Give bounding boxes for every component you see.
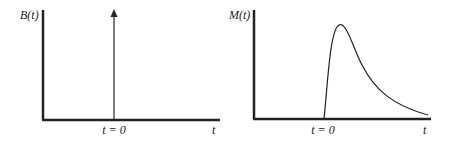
- right-tick-label: t = 0: [311, 123, 334, 137]
- response-curve: [324, 25, 428, 119]
- diagram: B(t) t = 0 t M(t) t = 0 t: [0, 0, 452, 141]
- left-y-label: B(t): [20, 8, 39, 22]
- right-x-label: t: [423, 123, 427, 137]
- left-plot: B(t) t = 0 t: [20, 8, 220, 137]
- left-tick-label: t = 0: [102, 123, 125, 137]
- right-plot: M(t) t = 0 t: [228, 8, 431, 137]
- right-y-label: M(t): [228, 8, 250, 22]
- impulse-arrowhead-icon: [111, 9, 118, 17]
- left-x-label: t: [212, 123, 216, 137]
